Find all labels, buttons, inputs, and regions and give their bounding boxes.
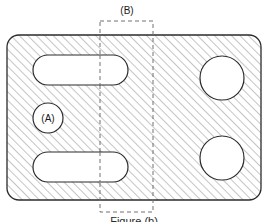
- technical-drawing-canvas: (A) (B) Figure (b): [0, 0, 268, 222]
- top-slot-outline: [33, 55, 128, 85]
- figure-caption: Figure (b): [110, 215, 158, 222]
- bottom-slot-outline: [33, 152, 128, 182]
- callout-a-label: (A): [41, 113, 54, 124]
- bottom-slot: [33, 152, 128, 182]
- callout-b-label: (B): [120, 5, 133, 16]
- top-slot: [33, 55, 128, 85]
- bottom-right-hole: [200, 136, 244, 180]
- top-right-hole: [200, 56, 244, 100]
- callout-a-circle: (A): [33, 103, 63, 133]
- figure-container: (A) (B) Figure (b): [0, 0, 268, 222]
